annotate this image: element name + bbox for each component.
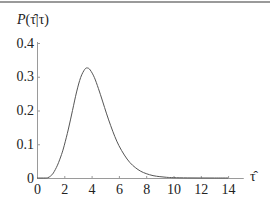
density-curve bbox=[37, 68, 228, 178]
y-axis-label-p: P bbox=[16, 12, 26, 27]
y-tick-label: 0.4 bbox=[17, 36, 35, 51]
y-axis-label-args: (τ̂|τ) bbox=[26, 12, 50, 28]
x-tick-label: 8 bbox=[143, 182, 150, 197]
y-axis-label: P(τ̂|τ) bbox=[16, 12, 49, 28]
x-tick-label: 2 bbox=[61, 182, 68, 197]
chart: 0246810121400.10.20.30.4 P(τ̂|τ) τ̂ bbox=[0, 0, 270, 207]
x-tick-label: 6 bbox=[116, 182, 123, 197]
x-tick-label: 0 bbox=[34, 182, 41, 197]
x-tick-label: 10 bbox=[167, 182, 181, 197]
x-tick-label: 14 bbox=[222, 182, 236, 197]
x-tick-label: 12 bbox=[194, 182, 208, 197]
y-tick-label: 0.3 bbox=[17, 69, 35, 84]
axes bbox=[37, 42, 244, 179]
y-tick-label: 0 bbox=[27, 171, 34, 186]
x-axis-label: τ̂ bbox=[250, 169, 259, 184]
x-tick-label: 4 bbox=[89, 182, 96, 197]
tick-labels: 0246810121400.10.20.30.4 bbox=[17, 36, 236, 198]
y-tick-label: 0.2 bbox=[17, 103, 35, 118]
tick-marks bbox=[37, 44, 229, 179]
y-tick-label: 0.1 bbox=[17, 137, 35, 152]
